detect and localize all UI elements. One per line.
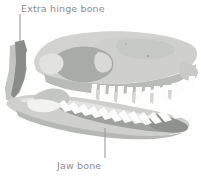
upper-tooth-shadow xyxy=(132,93,136,104)
upper-tooth xyxy=(117,86,124,103)
upper-tooth xyxy=(144,87,151,105)
upper-tooth xyxy=(135,87,142,104)
upper-tooth-shadow xyxy=(150,93,154,104)
upper-tooth xyxy=(171,83,178,99)
upper-tooth xyxy=(188,76,195,90)
upper-tooth xyxy=(180,80,187,95)
upper-tooth-shadow xyxy=(168,90,172,100)
upper-tooth xyxy=(108,86,115,102)
upper-tooth xyxy=(126,87,133,104)
annotation-label-jaw-bone: Jaw bone xyxy=(57,160,101,171)
upper-tooth xyxy=(162,85,169,102)
upper-tooth-shadow xyxy=(114,92,118,103)
skull-illustration xyxy=(0,0,201,176)
upper-tooth xyxy=(99,85,106,100)
suture-mark xyxy=(125,43,127,45)
annotation-label-extra-hinge-bone: Extra hinge bone xyxy=(21,3,105,14)
skull-diagram-figure: Extra hinge bone Jaw bone xyxy=(0,0,201,176)
nostril-mark xyxy=(147,55,150,58)
upper-tooth-shadow xyxy=(96,90,100,101)
upper-tooth xyxy=(153,86,160,104)
